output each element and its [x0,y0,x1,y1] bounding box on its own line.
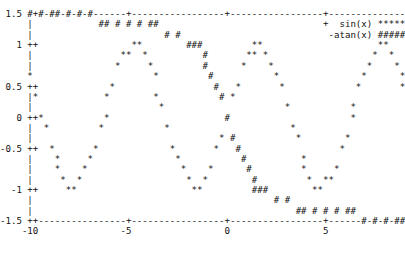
ascii-plot-canvas: 1.5 #+#-##-#-#-#------+-----------------… [0,9,405,272]
